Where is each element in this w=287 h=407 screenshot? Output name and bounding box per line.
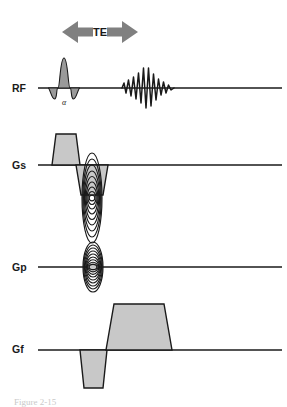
te-label: TE — [93, 26, 107, 38]
channel-gf: Gf — [12, 304, 282, 388]
gp-phase-encode-ladder — [83, 242, 103, 292]
channel-rf: RF α — [12, 58, 282, 108]
te-right-arrow-icon — [107, 21, 138, 43]
gf-readout-lobe — [106, 304, 172, 350]
channel-gp: Gp — [12, 242, 282, 292]
gf-dephase-lobe — [80, 350, 107, 388]
te-interval-marker: TE — [62, 21, 138, 43]
figure-caption: Figure 2-15 — [14, 397, 57, 407]
gs-slice-rephase-lobe — [76, 165, 108, 195]
channel-label-gf: Gf — [12, 343, 24, 355]
channel-label-gs: Gs — [12, 159, 26, 171]
channel-label-rf: RF — [12, 82, 27, 94]
gs-slice-select-lobe — [52, 134, 80, 165]
flip-angle-label: α — [62, 98, 67, 107]
channel-label-gp: Gp — [12, 261, 27, 273]
te-left-arrow-icon — [62, 21, 93, 43]
pulse-sequence-figure: TE RF α Gs Gp — [0, 0, 287, 407]
rf-excitation-pulse — [48, 58, 80, 99]
channel-gs: Gs — [12, 134, 282, 243]
